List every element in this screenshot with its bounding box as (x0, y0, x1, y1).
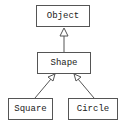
inheritance-arrowhead-icon (60, 28, 68, 36)
class-label: Square (14, 104, 46, 114)
inheritance-arrowhead-icon (74, 74, 81, 81)
class-node-square: Square (8, 98, 53, 120)
class-label: Object (47, 11, 79, 21)
edge-shape-object (60, 28, 68, 52)
class-node-object: Object (36, 5, 90, 27)
class-node-circle: Circle (68, 98, 118, 120)
edge-circle-shape (74, 74, 94, 98)
class-node-shape: Shape (37, 52, 91, 74)
class-label: Circle (77, 104, 109, 114)
edge-square-shape (35, 74, 55, 98)
inheritance-arrowhead-icon (48, 74, 55, 81)
class-label: Shape (50, 58, 77, 68)
